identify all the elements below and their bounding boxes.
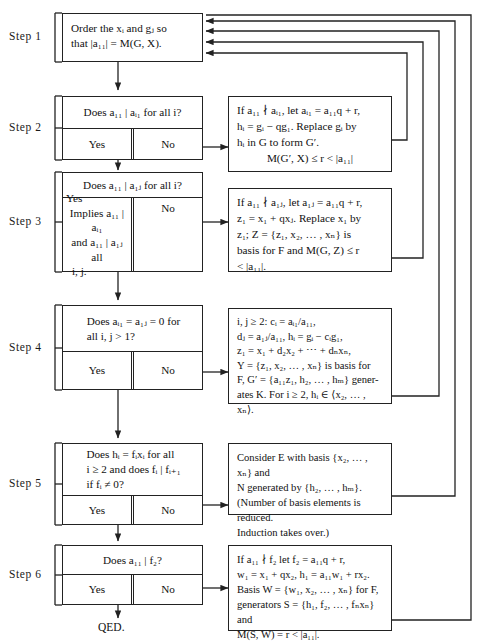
step-label-4: Step 4 xyxy=(9,341,42,353)
step6-question: Does a₁₁ | f₂? xyxy=(98,550,167,571)
step3-note-line-2: z₁ = x₁ + qxⱼ. Replace x₁ by xyxy=(237,211,383,227)
step4-note-line-2: dⱼ = a₁ⱼ/a₁₁, hᵢ = gᵢ − cᵢg₁, xyxy=(237,330,383,345)
qed-terminal: QED. xyxy=(98,621,125,633)
step2-question-cell: Does a₁₁ | aᵢ₁ for all i? xyxy=(63,97,202,129)
step3-no-cell[interactable]: No xyxy=(133,198,202,271)
step3-yes-note-1: Implies a₁₁ | aᵢ₁ xyxy=(66,206,128,235)
step-label-5: Step 5 xyxy=(9,477,42,489)
step2-decision-box[interactable]: Does a₁₁ | aᵢ₁ for all i? Yes No xyxy=(62,96,203,160)
step4-question: Does aᵢ₁ = a₁ⱼ = 0 for all i, j > 1? xyxy=(80,311,186,347)
step6-note-line-3: Basis W = {w₁, x₂, … , xₙ} for F, xyxy=(237,582,383,597)
step1-process-box[interactable]: Order the xᵢ and gⱼ so that |a₁₁| = M(G,… xyxy=(62,13,203,62)
step5-note-line-4: Induction takes over.) xyxy=(237,525,383,540)
step3-yes-cell[interactable]: Yes Implies a₁₁ | aᵢ₁ and a₁₁ | a₁ⱼ all … xyxy=(63,198,132,271)
step6-no-cell[interactable]: No xyxy=(133,575,202,604)
step3-decision-box[interactable]: Does a₁₁ | a₁ⱼ for all i? Yes Implies a₁… xyxy=(62,172,203,272)
step3-yes-note-2: and a₁₁ | a₁ⱼ all xyxy=(66,235,128,264)
step5-note-line-3: (Number of basis elements is reduced. xyxy=(237,495,383,525)
step6-decision-box[interactable]: Does a₁₁ | f₂? Yes No xyxy=(62,545,203,605)
step-label-3: Step 3 xyxy=(9,215,42,227)
step2-question: Does a₁₁ | aᵢ₁ for all i? xyxy=(79,102,187,123)
step-label-6: Step 6 xyxy=(9,568,42,580)
step4-note-line-3: z₁ = x₁ + d₂x₂ + ⋯ + dₙxₙ, xyxy=(237,344,383,359)
step6-note-box: If a₁₁ ∤ f₂ let f₂ = a₁₁q + r, w₁ = x₁ +… xyxy=(228,545,392,631)
step3-note-line-3: z₁; Z = {z₁, x₂, … , xₙ} is xyxy=(237,227,383,243)
step3-yes-label: Yes xyxy=(66,191,82,206)
step4-yesno-row: Yes No xyxy=(63,352,202,389)
step6-note-line-4: generators S = {h₁, f₂, … , fₙxₙ} and xyxy=(237,597,383,627)
step5-yesno-row: Yes No xyxy=(63,496,202,524)
step4-note-line-1: i, j ≥ 2: cᵢ = aᵢ₁/a₁₁, xyxy=(237,315,383,330)
step4-decision-box[interactable]: Does aᵢ₁ = a₁ⱼ = 0 for all i, j > 1? Yes… xyxy=(62,305,203,390)
step3-note-line-1: If a₁₁ ∤ a₁ⱼ, let a₁ⱼ = a₁₁q + r, xyxy=(237,195,383,211)
step1-text: Order the xᵢ and gⱼ so that |a₁₁| = M(G,… xyxy=(63,14,202,54)
step3-note-box: If a₁₁ ∤ a₁ⱼ, let a₁ⱼ = a₁₁q + r, z₁ = x… xyxy=(228,188,392,272)
step5-note-box: Consider E with basis {x₂, … , xₙ} and N… xyxy=(228,443,392,515)
step2-yes-cell[interactable]: Yes xyxy=(63,129,132,159)
step5-question-cell: Does hᵢ = fᵢxᵢ for all i ≥ 2 and does fᵢ… xyxy=(63,444,202,496)
step5-question: Does hᵢ = fᵢxᵢ for all i ≥ 2 and does fᵢ… xyxy=(79,444,185,494)
step3-yes-note-3: i, j. xyxy=(66,264,87,279)
step-label-1: Step 1 xyxy=(9,30,42,42)
step6-note-line-5: M(S, W) = r < |a₁₁|. xyxy=(237,627,383,642)
step2-note-line-4: M(G′, X) ≤ r < |a₁₁| xyxy=(237,151,383,167)
step-label-2: Step 2 xyxy=(9,121,42,133)
step4-note-box: i, j ≥ 2: cᵢ = aᵢ₁/a₁₁, dⱼ = a₁ⱼ/a₁₁, hᵢ… xyxy=(228,308,392,404)
step3-question-cell: Does a₁₁ | a₁ⱼ for all i? xyxy=(63,173,202,198)
step2-note-line-2: hᵢ = gᵢ − qg₁. Replace gᵢ by xyxy=(237,119,383,135)
step3-note-line-4: basis for F and M(G, Z) ≤ r xyxy=(237,243,383,259)
flowchart-canvas: Step 1 Step 2 Step 3 Step 4 Step 5 Step … xyxy=(0,0,489,644)
step3-question: Does a₁₁ | a₁ⱼ for all i? xyxy=(78,175,187,196)
step4-note-line-6: ates K. For i ≥ 2, hᵢ ∈ ⟨x₂, … , xₙ⟩. xyxy=(237,388,383,417)
step5-no-cell[interactable]: No xyxy=(133,496,202,524)
step4-note-line-4: Y = {z₁, x₂, … , xₙ} is basis for xyxy=(237,359,383,374)
step6-note-line-2: w₁ = x₁ + qx₂, h₁ = a₁₁w₁ + rx₂. xyxy=(237,567,383,582)
step5-note-line-1: Consider E with basis {x₂, … , xₙ} and xyxy=(237,450,383,480)
step5-note-line-2: N generated by {h₂, … , hₘ}. xyxy=(237,480,383,495)
step2-note-box: If a₁₁ ∤ aᵢ₁, let aᵢ₁ = a₁₁q + r, hᵢ = g… xyxy=(228,96,392,172)
step3-note-line-5: < |a₁₁|. xyxy=(237,259,383,275)
step5-decision-box[interactable]: Does hᵢ = fᵢxᵢ for all i ≥ 2 and does fᵢ… xyxy=(62,443,203,525)
step2-note-line-3: hᵢ in G to form G′. xyxy=(237,135,383,151)
step4-question-cell: Does aᵢ₁ = a₁ⱼ = 0 for all i, j > 1? xyxy=(63,306,202,352)
step2-yesno-row: Yes No xyxy=(63,129,202,159)
step6-yesno-row: Yes No xyxy=(63,575,202,604)
step5-yes-cell[interactable]: Yes xyxy=(63,496,132,524)
step3-yesno-row: Yes Implies a₁₁ | aᵢ₁ and a₁₁ | a₁ⱼ all … xyxy=(63,198,202,271)
step4-note-line-5: F, G′ = {a₁₁z₁, h₂, … , hₘ} gener- xyxy=(237,373,383,388)
step4-no-cell[interactable]: No xyxy=(133,352,202,389)
step6-yes-cell[interactable]: Yes xyxy=(63,575,132,604)
step2-no-cell[interactable]: No xyxy=(133,129,202,159)
step2-note-line-1: If a₁₁ ∤ aᵢ₁, let aᵢ₁ = a₁₁q + r, xyxy=(237,103,383,119)
step6-question-cell: Does a₁₁ | f₂? xyxy=(63,546,202,575)
step4-yes-cell[interactable]: Yes xyxy=(63,352,132,389)
step6-note-line-1: If a₁₁ ∤ f₂ let f₂ = a₁₁q + r, xyxy=(237,552,383,567)
